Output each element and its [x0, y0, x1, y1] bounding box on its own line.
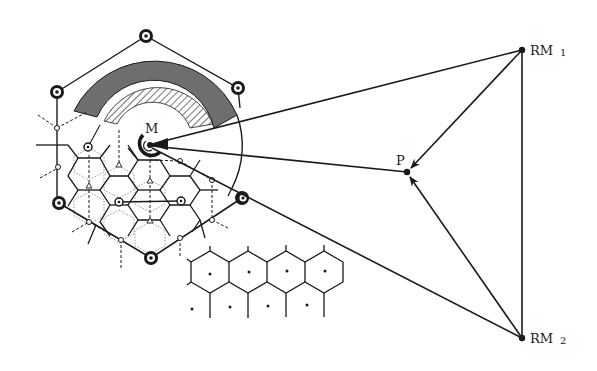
diagram-canvas: M P RM 1 RM 2: [0, 0, 597, 371]
arrow-rm1-p: [411, 50, 522, 168]
range-arc: [232, 115, 242, 188]
regular-hex-centers: [191, 270, 327, 311]
label-rm1: RM: [530, 43, 553, 58]
rm2-node: [519, 335, 525, 341]
label-rm2-sub: 2: [560, 335, 566, 346]
link-m-rm2: [152, 148, 522, 338]
base-station-icon: [235, 191, 249, 205]
rm1-node: [519, 47, 525, 53]
base-station-icon: [139, 29, 153, 43]
base-station-icon: [50, 85, 64, 99]
label-m: M: [145, 121, 158, 136]
triangle-nodes: [86, 162, 153, 223]
regular-hex-grid: [187, 245, 343, 318]
label-p: P: [396, 153, 405, 168]
label-rm1-sub: 1: [560, 47, 566, 58]
base-station-icon: [144, 251, 158, 265]
inner-station-nodes: [84, 143, 185, 206]
label-rm2: RM: [530, 331, 553, 346]
network-diagram: M P RM 1 RM 2: [0, 0, 597, 371]
base-station-icon: [231, 81, 245, 95]
base-station-icon: [52, 196, 66, 210]
point-p-node: [404, 169, 410, 175]
link-line: [119, 201, 181, 202]
arrow-rm2-p: [410, 177, 522, 338]
